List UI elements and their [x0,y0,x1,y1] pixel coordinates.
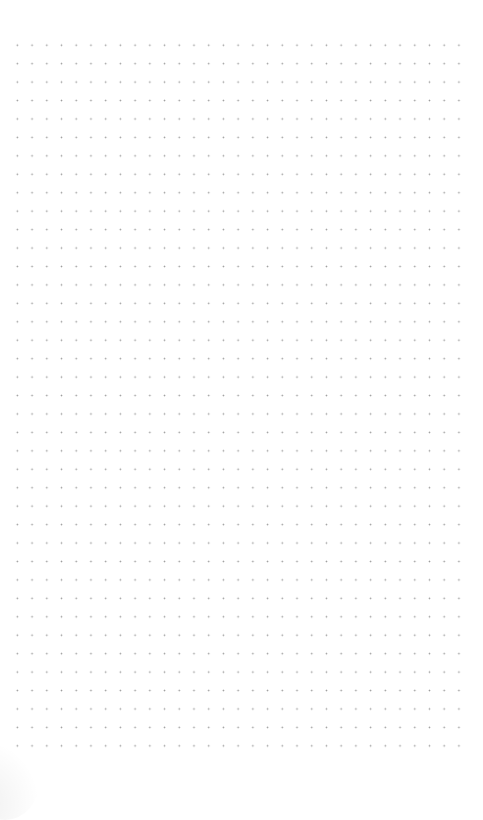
dot-grid-pattern [10,36,467,756]
